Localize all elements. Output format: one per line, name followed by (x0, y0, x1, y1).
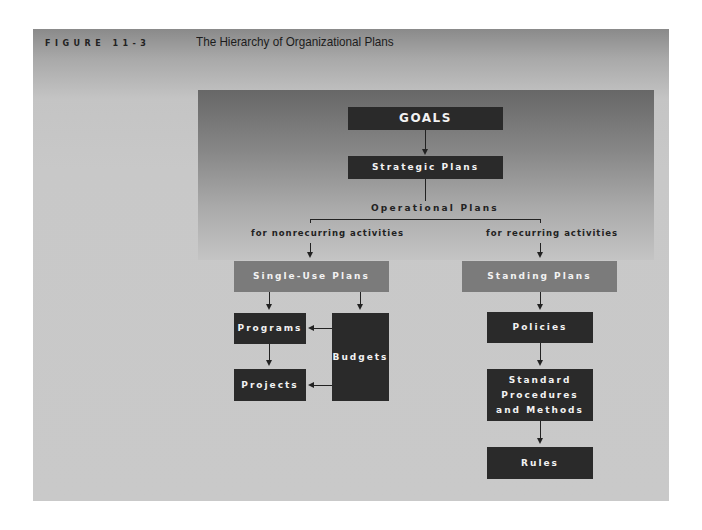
arrow-down-icon (266, 304, 272, 310)
standing-plans-box: Standing Plans (462, 261, 617, 292)
bracket-right-tick (540, 219, 541, 223)
recurring-label: for recurring activities (486, 228, 618, 238)
arrow-down-icon (266, 360, 272, 366)
programs-label: Programs (238, 321, 303, 336)
figure-number: FIGURE 11-3 (45, 39, 150, 48)
arrow-down-icon (537, 438, 543, 444)
arrow-down-icon (537, 360, 543, 366)
policies-label: Policies (513, 320, 568, 335)
nonrecurring-label: for nonrecurring activities (251, 228, 404, 238)
connector-programs-projects (269, 344, 270, 361)
budgets-box: Budgets (332, 313, 389, 401)
standing-plans-label: Standing Plans (487, 269, 591, 284)
connector-budgets-projects (314, 385, 332, 386)
single-use-plans-box: Single-Use Plans (234, 261, 389, 292)
connector-strategic-operational (425, 179, 426, 201)
arrow-down-icon (537, 252, 543, 258)
procedures-box: Standard Procedures and Methods (487, 369, 593, 421)
arrow-left-icon (308, 382, 314, 388)
budgets-label: Budgets (333, 350, 389, 365)
strategic-plans-box: Strategic Plans (348, 156, 503, 179)
rules-box: Rules (487, 447, 593, 479)
connector-budgets-programs (314, 328, 332, 329)
strategic-plans-label: Strategic Plans (372, 160, 479, 175)
procedures-label-line2: Procedures (501, 388, 578, 403)
procedures-label-line1: Standard (509, 373, 572, 388)
projects-label: Projects (241, 378, 298, 393)
connector-procedures-rules (540, 421, 541, 439)
arrow-down-icon (307, 252, 313, 258)
operational-plans-label: Operational Plans (371, 203, 499, 213)
branch-bracket (310, 219, 541, 220)
goals-label: GOALS (399, 111, 452, 126)
figure-title: The Hierarchy of Organizational Plans (196, 34, 394, 49)
projects-box: Projects (234, 369, 306, 401)
bracket-left-tick (310, 219, 311, 223)
rules-label: Rules (521, 456, 559, 471)
arrow-down-icon (422, 149, 428, 155)
programs-box: Programs (234, 313, 306, 344)
connector-goals-strategic (425, 130, 426, 150)
connector-policies-procedures (540, 343, 541, 361)
goals-box: GOALS (348, 107, 503, 130)
arrow-down-icon (357, 304, 363, 310)
procedures-label-line3: and Methods (496, 403, 584, 418)
single-use-plans-label: Single-Use Plans (253, 269, 370, 284)
arrow-down-icon (537, 304, 543, 310)
policies-box: Policies (487, 312, 593, 343)
arrow-left-icon (308, 325, 314, 331)
